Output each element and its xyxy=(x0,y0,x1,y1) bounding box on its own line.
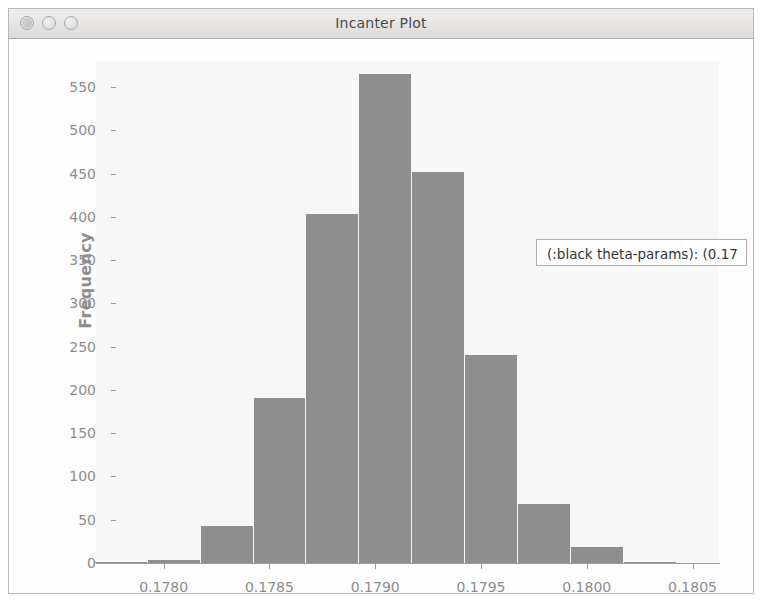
y-axis: Frequency 050100150200250300350400450500… xyxy=(31,39,96,593)
window-title: Incanter Plot xyxy=(9,15,753,31)
y-axis-tick-mark xyxy=(111,433,116,434)
y-axis-tick-label: 400 xyxy=(50,209,96,225)
y-axis-tick-label: 150 xyxy=(50,425,96,441)
y-axis-tick-label: 450 xyxy=(50,166,96,182)
y-axis-tick-label: 350 xyxy=(50,252,96,268)
y-axis-tick-label: 0 xyxy=(50,555,96,571)
histogram-bar[interactable] xyxy=(306,214,359,563)
y-axis-tick-mark xyxy=(111,303,116,304)
x-axis-tick-label: 0.1800 xyxy=(542,579,632,594)
y-axis-tick-label: 550 xyxy=(50,79,96,95)
x-axis-tick-label: 0.1785 xyxy=(224,579,314,594)
y-axis-tick-mark xyxy=(111,174,116,175)
histogram-bar[interactable] xyxy=(518,504,571,563)
y-axis-tick-mark xyxy=(111,390,116,391)
histogram-bars xyxy=(96,61,719,563)
data-point-tooltip: (:black theta-params): (0.17 xyxy=(536,239,747,266)
y-axis-tick-mark xyxy=(111,520,116,521)
y-axis-tick-label: 300 xyxy=(50,295,96,311)
x-axis-tick-label: 0.1790 xyxy=(330,579,420,594)
y-axis-tick-label: 200 xyxy=(50,382,96,398)
histogram-bar[interactable] xyxy=(465,355,518,563)
y-axis-tick-label: 250 xyxy=(50,339,96,355)
histogram-bar[interactable] xyxy=(412,172,465,563)
x-axis-tick-mark xyxy=(375,564,376,569)
x-axis-tick-mark xyxy=(481,564,482,569)
plot-canvas[interactable]: Frequency 050100150200250300350400450500… xyxy=(9,39,753,593)
y-axis-label: Frequency xyxy=(76,221,95,341)
plot-area[interactable] xyxy=(96,61,719,563)
plot-window: Incanter Plot Frequency 0501001502002503… xyxy=(8,8,754,594)
x-axis-tick-label: 0.1805 xyxy=(648,579,738,594)
y-axis-tick-mark xyxy=(111,563,116,564)
y-axis-tick-mark xyxy=(111,217,116,218)
x-axis-tick-mark xyxy=(164,564,165,569)
x-axis-line xyxy=(96,563,720,564)
x-axis-tick-mark xyxy=(587,564,588,569)
y-axis-tick-label: 500 xyxy=(50,122,96,138)
x-axis-tick-mark xyxy=(693,564,694,569)
x-axis-tick-label: 0.1780 xyxy=(119,579,209,594)
y-axis-tick-label: 100 xyxy=(50,468,96,484)
x-axis-tick-label: 0.1795 xyxy=(436,579,526,594)
y-axis-tick-mark xyxy=(111,130,116,131)
y-axis-tick-label: 50 xyxy=(50,512,96,528)
y-axis-tick-mark xyxy=(111,476,116,477)
histogram-bar[interactable] xyxy=(359,74,412,563)
histogram-bar[interactable] xyxy=(571,547,624,563)
histogram-bar[interactable] xyxy=(201,526,254,563)
y-axis-tick-mark xyxy=(111,87,116,88)
window-titlebar[interactable]: Incanter Plot xyxy=(9,9,753,39)
y-axis-tick-mark xyxy=(111,260,116,261)
x-axis-tick-mark xyxy=(269,564,270,569)
histogram-bar[interactable] xyxy=(254,398,307,563)
y-axis-tick-mark xyxy=(111,347,116,348)
